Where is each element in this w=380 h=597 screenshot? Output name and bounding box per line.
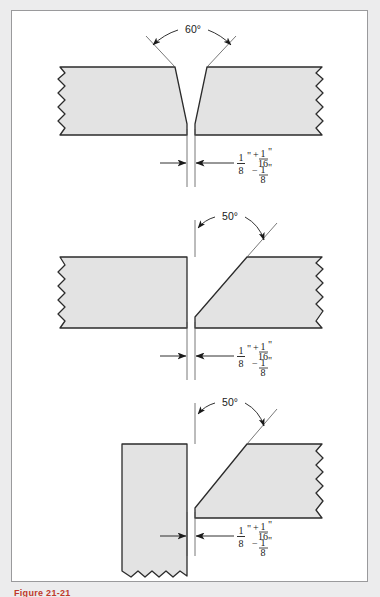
figure-2-group: 50° 1 8 " + 1 16 " − xyxy=(58,210,323,380)
figure-3-horizontal-plate xyxy=(195,444,323,518)
figure-1-tolerance-minus-sign: − xyxy=(252,165,258,176)
figure-3-tolerance-minus-unit: " xyxy=(268,535,272,546)
figure-2-tolerance-minus-unit: " xyxy=(268,355,272,366)
figure-1-tolerance-minus-denominator: 8 xyxy=(261,174,266,185)
figure-3-tolerance-minus-denominator: 8 xyxy=(261,547,266,558)
figure-2-angle-label: 50° xyxy=(222,210,238,222)
figure-1-dim-unit: " xyxy=(247,150,251,161)
figure-3-angle-label: 50° xyxy=(222,396,238,408)
figure-2-left-plate xyxy=(58,257,187,328)
figure-1-left-plate xyxy=(58,67,187,135)
figure-3-group: 50° 1 8 " + 1 16 " − xyxy=(122,396,323,577)
figure-caption: Figure 21-21 xyxy=(14,588,71,597)
figure-2-tolerance-minus-sign: − xyxy=(252,358,258,369)
figure-1-angle-arc-right xyxy=(208,30,231,45)
figure-2-angle-arc-right xyxy=(245,217,264,240)
figure-2-right-plate xyxy=(195,257,323,328)
figure-3-dim-unit: " xyxy=(247,523,251,534)
figure-2-root-opening-dimension: 1 8 " + 1 16 " − 1 8 " xyxy=(237,339,272,378)
weld-joint-drawings: 60° 1 8 " + 1 16 " − xyxy=(12,11,367,581)
figure-1-group: 60° 1 8 " + 1 16 " − xyxy=(58,23,323,187)
figure-3-bevel-extension xyxy=(247,409,277,444)
figure-3-vertical-plate xyxy=(122,444,187,577)
figure-3-angle-arc-left xyxy=(198,403,215,414)
figure-2-bevel-extension xyxy=(247,223,277,257)
figure-3-tolerance-minus-sign: − xyxy=(252,538,258,549)
figure-1-right-plate xyxy=(195,67,323,135)
figure-3-root-opening-dimension: 1 8 " + 1 16 " − 1 8 " xyxy=(237,519,272,558)
figure-1-dim-denominator: 8 xyxy=(239,165,244,176)
figure-2-dim-denominator: 8 xyxy=(239,358,244,369)
figure-2-angle-arc-left xyxy=(198,217,215,228)
figure-3-tolerance-plus-unit: " xyxy=(268,519,272,530)
figure-1-angle-label: 60° xyxy=(185,23,201,35)
figure-3-dim-numerator: 1 xyxy=(239,525,244,536)
figure-frame: 60° 1 8 " + 1 16 " − xyxy=(11,10,368,582)
figure-2-dim-numerator: 1 xyxy=(239,345,244,356)
figure-3-angle-arc-right xyxy=(245,403,264,426)
figure-1-bevel-extension-right xyxy=(207,36,236,67)
figure-1-tolerance-minus-unit: " xyxy=(268,162,272,173)
figure-3-dim-denominator: 8 xyxy=(239,538,244,549)
figure-1-angle-arc-left xyxy=(153,30,178,45)
page-canvas: 60° 1 8 " + 1 16 " − xyxy=(0,0,380,597)
figure-2-tolerance-minus-denominator: 8 xyxy=(261,367,266,378)
figure-2-dim-unit: " xyxy=(247,343,251,354)
figure-2-tolerance-plus-unit: " xyxy=(268,339,272,350)
figure-1-root-opening-dimension: 1 8 " + 1 16 " − 1 8 " xyxy=(237,146,272,185)
figure-1-bevel-extension-left xyxy=(146,36,175,67)
figure-1-tolerance-plus-unit: " xyxy=(268,146,272,157)
figure-1-dim-numerator: 1 xyxy=(239,152,244,163)
